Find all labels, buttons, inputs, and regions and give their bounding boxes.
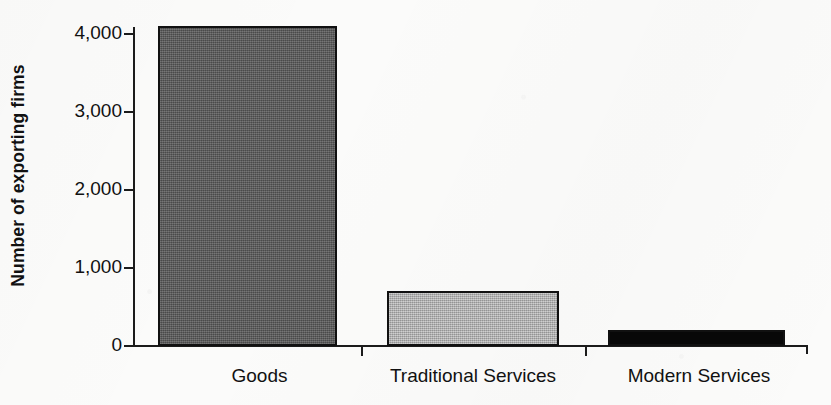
y-tick-label-2000: 2,000 (34, 179, 122, 198)
y-tick-mark-1000 (124, 267, 134, 269)
x-axis-end-tick (806, 347, 808, 354)
y-tick-mark-3000 (124, 111, 134, 113)
x-category-label-traditional-services: Traditional Services (365, 366, 581, 385)
y-axis-tick-labels: 0 1,000 2,000 3,000 4,000 (30, 0, 122, 405)
y-axis-line (133, 27, 135, 347)
plot-area: Goods Traditional Services Modern Servic… (133, 18, 808, 348)
x-category-label-goods: Goods (158, 366, 361, 385)
x-category-label-modern-services: Modern Services (591, 366, 807, 385)
bar-traditional-services[interactable] (387, 291, 559, 346)
y-tick-label-4000: 4,000 (34, 23, 122, 42)
y-tick-mark-2000 (124, 189, 134, 191)
bar-chart: Number of exporting firms 0 1,000 2,000 … (0, 0, 831, 405)
y-tick-label-0: 0 (34, 335, 122, 354)
bar-goods[interactable] (158, 26, 337, 346)
x-tick-mark-2 (585, 347, 587, 356)
bar-modern-services[interactable] (608, 330, 785, 346)
y-tick-mark-4000 (124, 33, 134, 35)
y-tick-label-3000: 3,000 (34, 101, 122, 120)
x-tick-mark-1 (361, 347, 363, 356)
y-tick-label-1000: 1,000 (34, 257, 122, 276)
y-tick-mark-0 (124, 345, 134, 347)
